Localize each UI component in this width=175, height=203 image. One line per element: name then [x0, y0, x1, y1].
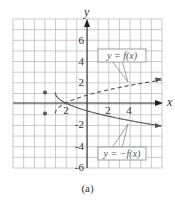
y-axis-label: y: [83, 5, 90, 19]
neg-f-start-point: [43, 90, 47, 94]
f-label-leader: [112, 61, 128, 82]
neg-f-label: y = −f(x): [103, 148, 141, 160]
f-label: y = f(x): [106, 50, 138, 62]
graph-figure: y = f(x) y = −f(x) x y 2 2 4 6 4 2 -2 -4…: [0, 0, 175, 203]
x-axis-label: x: [166, 95, 173, 109]
f-start-point: [43, 112, 47, 116]
x-tick-2: 2: [105, 104, 111, 116]
x-tick-4: 4: [126, 104, 132, 116]
y-tick-2: 2: [79, 76, 85, 88]
y-tick-6: 6: [79, 34, 85, 46]
y-axis-arrow-icon: [84, 19, 90, 27]
y-tick-neg4: -4: [75, 140, 85, 152]
y-tick-neg6: -6: [75, 161, 85, 173]
x-tick-neg2: 2: [63, 104, 69, 116]
figure-caption: (a): [0, 182, 175, 194]
y-tick-4: 4: [79, 55, 85, 67]
y-tick-neg2: -2: [75, 118, 84, 130]
